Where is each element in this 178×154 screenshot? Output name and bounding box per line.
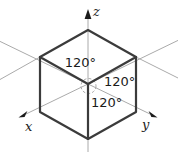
y-axis-label: y — [141, 117, 150, 132]
top-left-edge-extension-line — [0, 57, 40, 80]
angle-label-right: 120° — [104, 74, 135, 89]
angle-label-upper-left: 120° — [65, 55, 96, 70]
top-right-edge-extension-line — [136, 57, 178, 78]
z-axis-arrowhead — [85, 9, 92, 19]
y-axis-arrowhead — [149, 111, 158, 118]
x-axis-arrowhead — [19, 111, 28, 118]
x-axis-label: x — [25, 119, 33, 134]
diagram-canvas: 120° 120° 120° z x y — [0, 0, 178, 154]
angle-label-lower: 120° — [91, 95, 122, 110]
isometric-cube-diagram: 120° 120° 120° z x y — [0, 0, 178, 154]
z-axis-label: z — [92, 4, 100, 19]
